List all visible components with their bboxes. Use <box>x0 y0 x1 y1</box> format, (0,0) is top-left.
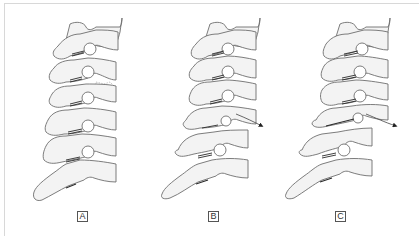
joint-c-5 <box>322 153 336 158</box>
joint-b-5 <box>198 153 212 158</box>
vertebra-a-6 <box>33 160 116 201</box>
facet-c-3 <box>354 90 366 102</box>
facet-a-5 <box>82 146 94 158</box>
facet-c-4 <box>353 113 363 123</box>
facet-a-1 <box>84 43 96 55</box>
facet-b-2 <box>222 66 234 78</box>
vertebra-c-1 <box>323 30 388 59</box>
spine-figure <box>0 0 419 236</box>
panel-label-a: A <box>77 211 88 222</box>
vertebra-c-5 <box>299 128 372 156</box>
panel-label-c: C <box>335 211 346 222</box>
vertebra-b-5 <box>175 130 248 156</box>
panel-label-b: B <box>208 211 219 222</box>
vertebra-b-6 <box>161 159 248 199</box>
facet-b-4 <box>221 116 231 126</box>
facet-c-5 <box>338 144 350 156</box>
vertebra-c-4-displaced <box>312 105 388 128</box>
facet-a-4 <box>82 120 94 132</box>
facet-c-2 <box>354 66 366 78</box>
panel-c <box>285 18 396 199</box>
facet-a-2 <box>82 66 94 78</box>
panel-a <box>33 18 122 201</box>
panel-b <box>161 18 262 199</box>
facet-a-3 <box>82 92 94 104</box>
facet-b-3 <box>222 90 234 102</box>
facet-b-5 <box>214 144 226 156</box>
